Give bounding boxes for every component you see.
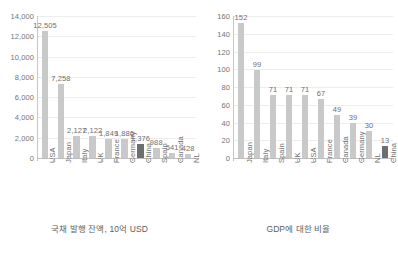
x-axis-tick <box>132 158 133 161</box>
x-axis-tick <box>377 158 378 161</box>
x-axis-tick <box>85 158 86 161</box>
x-axis-tick <box>361 158 362 161</box>
x-axis-tick <box>249 158 250 161</box>
bar-nl[interactable] <box>185 154 192 158</box>
x-axis-tick <box>233 158 234 161</box>
bar-canada[interactable] <box>334 115 341 158</box>
bar-uk[interactable] <box>89 136 96 158</box>
plot-area-left: 02,0004,0006,0008,00010,00012,00014,000 … <box>0 12 199 212</box>
bar-value-label: 71 <box>285 85 294 94</box>
chart-panel-debt-outstanding: 02,0004,0006,0008,00010,00012,00014,000 … <box>0 0 199 258</box>
x-axis-tick <box>196 158 197 161</box>
plot-area-right: 020406080100120140160 152Japan99Italy71S… <box>199 12 398 212</box>
bar-spain[interactable] <box>270 95 277 158</box>
x-axis-tick <box>37 158 38 161</box>
bar-uk[interactable] <box>286 95 293 158</box>
bar-value-label: 7,258 <box>51 74 70 83</box>
x-axis-tick <box>345 158 346 161</box>
bar-value-label: 71 <box>269 85 278 94</box>
bar-value-label: 67 <box>317 89 326 98</box>
bar-value-label: 71 <box>301 85 310 94</box>
bar-value-label: 1,376 <box>131 134 150 143</box>
chart-caption-right: GDP에 대한 비율 <box>199 222 398 234</box>
bar-germany[interactable] <box>350 123 357 158</box>
x-axis-tick <box>117 158 118 161</box>
bar-france[interactable] <box>105 139 112 158</box>
bar-italy[interactable] <box>254 70 261 158</box>
chart-caption-left: 국채 발행 잔액, 10억 USD <box>0 222 199 234</box>
bar-value-label: 428 <box>182 144 195 153</box>
bar-value-label: 39 <box>349 113 358 122</box>
bar-value-label: 13 <box>381 136 390 145</box>
bar-china[interactable] <box>137 144 144 158</box>
x-axis-tick <box>393 158 394 161</box>
x-axis-tick <box>297 158 298 161</box>
x-axis-tick <box>148 158 149 161</box>
bar-value-label: 12,505 <box>33 21 57 30</box>
bar-value-label: 152 <box>235 13 248 22</box>
bar-value-label: 30 <box>365 121 374 130</box>
bar-china[interactable] <box>382 146 389 158</box>
bar-nl[interactable] <box>366 131 373 158</box>
x-axis-tick <box>265 158 266 161</box>
x-axis-tick <box>69 158 70 161</box>
x-axis-tick <box>281 158 282 161</box>
bar-value-label: 99 <box>253 60 262 69</box>
x-axis-tick <box>164 158 165 161</box>
bar-japan[interactable] <box>238 23 245 158</box>
bars-container-left: 12,505USA7,258Japan2,127Italy2,122UK1,84… <box>0 12 199 212</box>
bar-france[interactable] <box>318 99 325 158</box>
bar-canada[interactable] <box>169 153 176 158</box>
bar-usa[interactable] <box>302 95 309 158</box>
bar-spain[interactable] <box>153 148 160 158</box>
x-axis-tick <box>329 158 330 161</box>
x-axis-tick <box>180 158 181 161</box>
x-axis-tick <box>313 158 314 161</box>
bar-usa[interactable] <box>42 31 49 158</box>
dual-bar-chart-figure: 02,0004,0006,0008,00010,00012,00014,000 … <box>0 0 398 258</box>
bar-germany[interactable] <box>121 139 128 158</box>
bar-value-label: 49 <box>333 105 342 114</box>
chart-panel-gdp-ratio: 020406080100120140160 152Japan99Italy71S… <box>199 0 398 258</box>
bars-container-right: 152Japan99Italy71Spain71UK71USA67France4… <box>199 12 398 212</box>
x-axis-tick <box>53 158 54 161</box>
x-axis-tick <box>101 158 102 161</box>
